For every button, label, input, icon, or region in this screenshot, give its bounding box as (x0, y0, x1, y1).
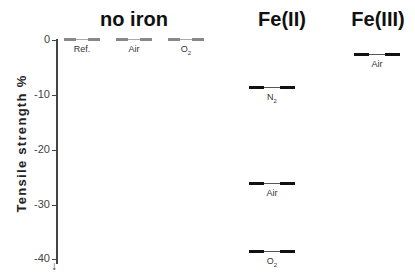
condition-label-n2: N2 (267, 92, 277, 104)
y-tick (52, 205, 57, 206)
condition-label-air: Air (372, 59, 383, 69)
data-marker-no-iron-air (116, 38, 152, 41)
condition-label-ref: Ref. (74, 44, 91, 54)
y-tick (52, 150, 57, 151)
data-marker-no-iron-ref (64, 38, 100, 41)
y-tick-label: -10 (24, 88, 50, 100)
data-marker-fe-ii-air (249, 182, 295, 185)
group-title-fe-ii: Fe(II) (258, 8, 306, 31)
data-marker-fe-iii-air (354, 53, 400, 56)
condition-label-o2: O2 (181, 44, 191, 56)
data-marker-no-iron-o2 (168, 38, 204, 41)
group-title-fe-iii: Fe(III) (351, 8, 404, 31)
y-tick-label: -40 (24, 252, 50, 264)
y-tick-label: 0 (24, 33, 50, 45)
y-tick-label: -30 (24, 198, 50, 210)
y-tick-label: -20 (24, 143, 50, 155)
y-tick (52, 259, 57, 260)
condition-label-o2: O2 (267, 256, 277, 268)
y-axis-line (56, 39, 58, 264)
data-marker-fe-ii-o2 (249, 250, 295, 253)
group-title-no-iron: no iron (100, 8, 168, 31)
condition-label-air: Air (129, 44, 140, 54)
axis-arrow-down-icon: ↓ (51, 261, 57, 271)
data-marker-fe-ii-n2 (249, 86, 295, 89)
y-tick (52, 95, 57, 96)
y-tick (52, 40, 57, 41)
condition-label-air: Air (267, 188, 278, 198)
